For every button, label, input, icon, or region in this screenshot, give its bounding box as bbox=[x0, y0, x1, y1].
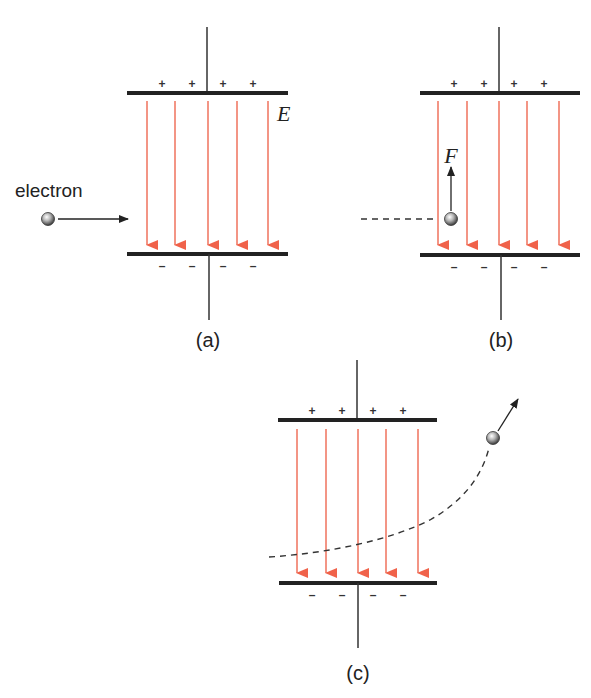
minus-sign: – bbox=[370, 588, 377, 602]
plus-sign: + bbox=[369, 404, 376, 418]
plus-sign: + bbox=[308, 404, 315, 418]
minus-sign: – bbox=[451, 260, 458, 274]
plus-sign: + bbox=[338, 404, 345, 418]
minus-sign: – bbox=[339, 588, 346, 602]
electron-label: electron bbox=[15, 180, 83, 201]
deflection-path bbox=[269, 448, 489, 557]
minus-sign: – bbox=[220, 259, 227, 273]
electron-icon bbox=[445, 213, 458, 226]
panel-b: + + + + – – – – F (b) bbox=[361, 27, 580, 351]
minus-sign: – bbox=[541, 260, 548, 274]
plus-sign: + bbox=[219, 77, 226, 91]
plus-sign: + bbox=[249, 77, 256, 91]
minus-sign: – bbox=[250, 259, 257, 273]
electron-icon bbox=[487, 432, 500, 445]
minus-signs: – – – – bbox=[159, 259, 257, 273]
plus-sign: + bbox=[510, 77, 517, 91]
plus-sign: + bbox=[450, 77, 457, 91]
minus-sign: – bbox=[159, 259, 166, 273]
capacitor-deflection-diagram: + + + + E – – – – electron (a) + bbox=[0, 0, 591, 698]
minus-sign: – bbox=[400, 588, 407, 602]
panel-a: + + + + E – – – – electron (a) bbox=[15, 27, 291, 351]
force-label-f: F bbox=[443, 143, 458, 168]
plus-sign: + bbox=[540, 77, 547, 91]
plus-sign: + bbox=[188, 77, 195, 91]
caption-c: (c) bbox=[346, 662, 369, 684]
panel-c: + + + + – – – – (c) bbox=[269, 360, 518, 684]
minus-signs: – – – – bbox=[451, 260, 548, 274]
field-lines bbox=[147, 101, 268, 245]
caption-b: (b) bbox=[489, 329, 513, 351]
minus-sign: – bbox=[511, 260, 518, 274]
plus-sign: + bbox=[480, 77, 487, 91]
plus-sign: + bbox=[399, 404, 406, 418]
field-label-e: E bbox=[276, 101, 291, 126]
minus-sign: – bbox=[309, 588, 316, 602]
minus-sign: – bbox=[189, 259, 196, 273]
velocity-arrow-icon bbox=[498, 399, 518, 431]
minus-sign: – bbox=[481, 260, 488, 274]
electron-icon bbox=[42, 213, 55, 226]
caption-a: (a) bbox=[196, 329, 220, 351]
field-lines bbox=[297, 429, 418, 573]
plus-sign: + bbox=[158, 77, 165, 91]
